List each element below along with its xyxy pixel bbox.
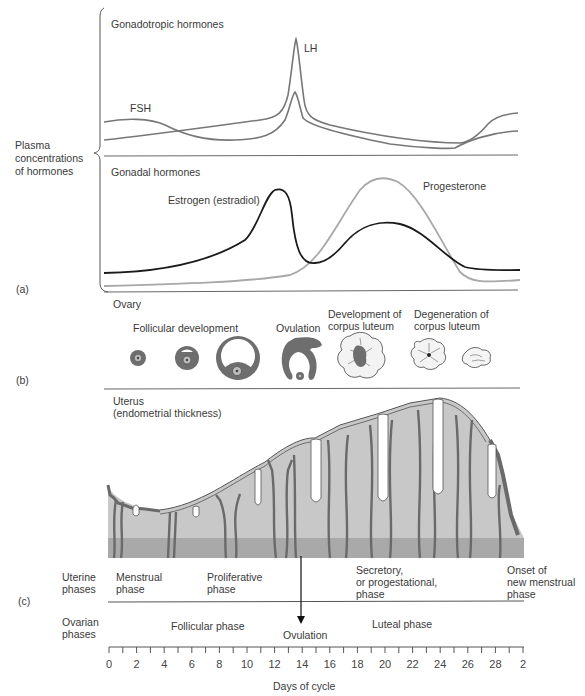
gonadal-baseline bbox=[104, 290, 518, 292]
uterine-phase-secretory: Secretory, or progestational, phase bbox=[356, 564, 437, 600]
progesterone-label: Progesterone bbox=[423, 180, 486, 192]
day-tick-label: 22 bbox=[406, 658, 418, 670]
ovary-stage-follicular-label: Follicular development bbox=[133, 322, 238, 334]
follicle-primary-icon bbox=[130, 350, 146, 366]
panel-a-bracket bbox=[94, 8, 108, 292]
day-tick-label: 14 bbox=[296, 658, 308, 670]
panel-b-divider bbox=[104, 388, 520, 389]
plasma-concentrations-label: Plasma concentrations of hormones bbox=[15, 139, 83, 178]
day-tick-label: 2 bbox=[520, 658, 526, 670]
panel-c-label: (c) bbox=[18, 595, 30, 607]
gonadotropic-title: Gonadotropic hormones bbox=[111, 18, 224, 30]
uterine-phases-divider bbox=[108, 601, 524, 602]
axis-title: Days of cycle bbox=[273, 680, 335, 692]
day-axis-ticks bbox=[109, 647, 523, 653]
ovarian-phases-row-label: Ovarian phases bbox=[62, 616, 99, 640]
day-tick-label: 28 bbox=[489, 658, 501, 670]
gonadal-title: Gonadal hormones bbox=[111, 166, 200, 178]
progesterone-curve bbox=[104, 178, 520, 286]
lh-label: LH bbox=[304, 42, 317, 54]
panel-b-label: (b) bbox=[16, 374, 29, 386]
ovarian-phase-follicular: Follicular phase bbox=[171, 620, 245, 632]
day-tick-label: 12 bbox=[268, 658, 280, 670]
day-tick-label: 8 bbox=[216, 658, 222, 670]
ovulation-icon bbox=[282, 337, 322, 380]
corpus-luteum-degenerating-icon bbox=[411, 339, 446, 370]
corpus-luteum-developing-icon bbox=[338, 332, 385, 378]
day-tick-label: 2 bbox=[134, 658, 140, 670]
day-tick-label: 24 bbox=[434, 658, 446, 670]
fsh-label: FSH bbox=[130, 102, 151, 114]
follicle-secondary-icon bbox=[175, 346, 199, 370]
panel-a-label: (a) bbox=[16, 283, 29, 295]
gonadotropic-baseline bbox=[104, 155, 518, 156]
day-tick-label: 0 bbox=[106, 658, 112, 670]
day-tick-label: 16 bbox=[324, 658, 336, 670]
ovarian-phase-luteal: Luteal phase bbox=[372, 618, 432, 630]
ovary-stage-ovulation-label: Ovulation bbox=[276, 322, 320, 334]
day-tick-label: 10 bbox=[241, 658, 253, 670]
endometrium-illustration bbox=[108, 398, 524, 558]
uterine-phase-menstrual: Menstrual phase bbox=[116, 571, 162, 595]
day-tick-label: 6 bbox=[189, 658, 195, 670]
day-tick-label: 18 bbox=[351, 658, 363, 670]
uterine-phase-onset-menstrual: Onset of new menstrual phase bbox=[507, 564, 575, 600]
uterus-title: Uterus (endometrial thickness) bbox=[113, 395, 222, 419]
ovulation-arrow-head bbox=[297, 616, 305, 624]
day-tick-label: 4 bbox=[161, 658, 167, 670]
day-tick-label: 26 bbox=[462, 658, 474, 670]
ovulation-label: Ovulation bbox=[283, 629, 327, 641]
ovary-stage-cl-development-label: Development of corpus luteum bbox=[328, 308, 402, 332]
estrogen-label: Estrogen (estradiol) bbox=[168, 194, 260, 206]
ovary-stage-cl-degeneration-label: Degeneration of corpus luteum bbox=[414, 308, 489, 332]
fsh-curve bbox=[104, 92, 518, 148]
uterine-phases-row-label: Uterine phases bbox=[62, 571, 96, 595]
day-tick-label: 20 bbox=[379, 658, 391, 670]
corpus-albicans-icon bbox=[462, 348, 490, 368]
ovary-title: Ovary bbox=[113, 298, 141, 310]
lh-curve bbox=[104, 39, 518, 143]
uterine-phase-proliferative: Proliferative phase bbox=[207, 571, 262, 595]
follicle-mature-icon bbox=[216, 336, 260, 380]
